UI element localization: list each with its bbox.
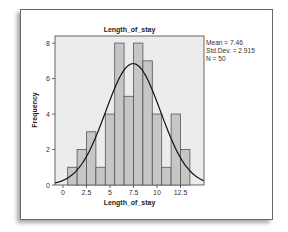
histogram-bar — [124, 96, 133, 185]
y-tick-label: 4 — [46, 111, 50, 118]
summary-statistics: Mean = 7.46 Std.Dev. = 2.915 N = 50 — [206, 39, 255, 63]
histogram-bar — [152, 114, 161, 185]
histogram-bar — [162, 167, 171, 185]
x-tick-label: 0 — [61, 189, 65, 196]
y-axis-label: Frequency — [31, 92, 39, 128]
histogram-bar — [68, 167, 77, 185]
histogram-bar — [96, 167, 105, 185]
std-dev-stat: Std.Dev. = 2.915 — [206, 47, 255, 55]
histogram-bar — [180, 150, 189, 185]
y-tick-label: 8 — [46, 40, 50, 47]
x-tick-label: 12.5 — [174, 189, 188, 196]
y-tick-label: 6 — [46, 75, 50, 82]
x-axis-ticks: 02.557.51012.5 — [61, 185, 187, 196]
mean-stat: Mean = 7.46 — [206, 39, 255, 47]
histogram-bar — [105, 114, 114, 185]
x-axis-label: Length_of_stay — [104, 199, 156, 207]
y-tick-label: 2 — [46, 146, 50, 153]
x-tick-label: 2.5 — [82, 189, 92, 196]
x-tick-label: 10 — [153, 189, 161, 196]
histogram-bar — [77, 150, 86, 185]
histogram-chart: Length_of_stay 02468 02.557.51012.5 Leng… — [0, 0, 288, 232]
chart-title: Length_of_stay — [104, 26, 156, 34]
y-axis-ticks: 02468 — [46, 40, 55, 189]
n-stat: N = 50 — [206, 55, 255, 63]
x-tick-label: 5 — [108, 189, 112, 196]
histogram-bar — [115, 43, 124, 185]
y-tick-label: 0 — [46, 182, 50, 189]
x-tick-label: 7.5 — [129, 189, 139, 196]
